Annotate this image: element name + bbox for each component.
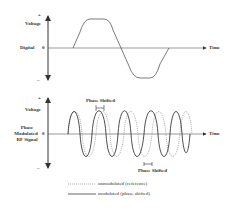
legend-item-reference: unmodulated (reference): [98, 181, 147, 187]
modulated-wave-solid: [68, 111, 190, 157]
phase-shifted-annotation-top: Phase Shifted: [86, 98, 115, 104]
phase-shift-marker-top: [96, 105, 104, 111]
legend-item-modulated: modulated (phase shifted): [98, 191, 150, 197]
diagram-canvas: [0, 0, 231, 211]
phase-shifted-annotation-bottom: Phase Shifted: [138, 168, 167, 174]
top-voltage-label: Voltage: [25, 21, 41, 27]
digital-signal-curve: [73, 19, 169, 78]
bottom-zero-label: 0: [42, 131, 45, 137]
bottom-time-label: Time: [209, 131, 220, 137]
bottom-plus-sign: +: [38, 95, 41, 101]
bottom-voltage-label: Voltage: [25, 107, 41, 113]
phase-modulated-label-line3: RF Signal: [10, 137, 44, 143]
bottom-minus-sign: −: [37, 166, 40, 172]
top-time-label: Time: [209, 45, 220, 51]
top-minus-sign: −: [37, 78, 40, 84]
top-plus-sign: +: [38, 12, 41, 18]
phase-shift-marker-bottom: [144, 162, 152, 166]
top-zero-label: 0: [42, 45, 45, 51]
digital-label: Digital: [20, 45, 34, 51]
